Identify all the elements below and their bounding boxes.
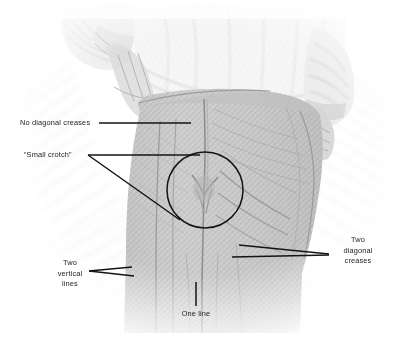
label-two-vertical-lines: Two vertical lines	[43, 258, 97, 290]
leader-two-diagonal-a	[239, 245, 329, 254]
label-line: Two	[43, 258, 97, 269]
label-no-diagonal-creases: No diagonal creases	[20, 118, 90, 129]
label-small-crotch: “Small crotch”	[24, 150, 72, 161]
label-line: creases	[330, 256, 386, 267]
leader-small-crotch-diagonal	[88, 155, 180, 220]
label-line: lines	[43, 279, 97, 290]
leader-two-diagonal-b	[232, 255, 329, 257]
label-line: Two	[330, 235, 386, 246]
label-line: diagonal	[330, 246, 386, 257]
figure-container: No diagonal creases “Small crotch” Two v…	[0, 0, 406, 339]
label-line: vertical	[43, 269, 97, 280]
detail-circle	[167, 152, 243, 228]
label-one-line: One line	[165, 309, 227, 320]
label-two-diagonal-creases: Two diagonal creases	[330, 235, 386, 267]
